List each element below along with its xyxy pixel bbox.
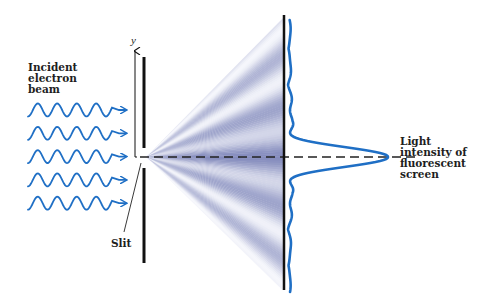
electron-wave bbox=[28, 104, 126, 117]
y-axis-arrow bbox=[135, 51, 137, 157]
intensity-label: Light intensity of fluorescent screen bbox=[400, 136, 467, 180]
diffraction-diagram: y Incident electron beam Slit Light inte… bbox=[0, 0, 484, 307]
slit-pointer-line bbox=[124, 163, 141, 232]
diffraction-fan bbox=[146, 18, 283, 291]
y-axis-label: y bbox=[131, 34, 136, 46]
electron-wave bbox=[28, 127, 126, 140]
electron-wave bbox=[28, 197, 126, 210]
slit-label: Slit bbox=[111, 238, 131, 249]
intensity-curve bbox=[288, 20, 388, 292]
electron-wave bbox=[28, 150, 126, 163]
incident-electron-waves bbox=[28, 104, 126, 210]
incident-beam-label: Incident electron beam bbox=[28, 62, 77, 95]
electron-wave bbox=[28, 173, 126, 186]
